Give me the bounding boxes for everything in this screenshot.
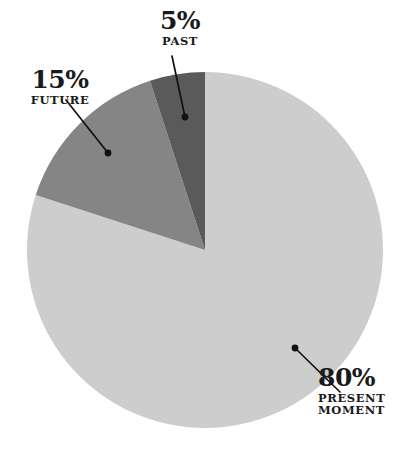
pie-label-future: 15% FUTURE bbox=[14, 67, 106, 106]
pie-label-future-value: 15% bbox=[14, 67, 106, 93]
pie-chart: 5% PAST 15% FUTURE 80% PRESENT MOMENT bbox=[0, 0, 408, 449]
pie-label-present-moment-value: 80% bbox=[318, 365, 408, 391]
callout-dot-future bbox=[105, 150, 112, 157]
pie-label-past-value: 5% bbox=[140, 8, 220, 34]
callout-dot-past bbox=[182, 114, 189, 121]
pie-label-past: 5% PAST bbox=[140, 8, 220, 47]
callout-dot-present-moment bbox=[292, 345, 299, 352]
pie-label-present-moment: 80% PRESENT MOMENT bbox=[318, 365, 408, 416]
pie-label-future-name: FUTURE bbox=[14, 94, 106, 106]
pie-label-present-moment-name-line2: MOMENT bbox=[318, 404, 408, 416]
pie-label-past-name: PAST bbox=[140, 35, 220, 47]
